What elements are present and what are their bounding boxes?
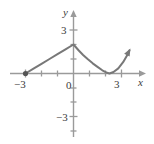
y-tick-label-pos3: 3: [61, 25, 67, 36]
x-axis-label: x: [138, 77, 143, 88]
axes-group: [10, 10, 146, 137]
graph-figure: −3 0 3 3 −3 x y: [0, 0, 154, 144]
y-axis-arrow-icon: [70, 10, 76, 17]
plot-canvas: [0, 0, 154, 144]
y-tick-label-neg3: −3: [56, 112, 68, 123]
function-curve: [26, 45, 130, 74]
y-axis-label: y: [63, 7, 68, 18]
x-tick-label-zero: 0: [66, 80, 72, 91]
curve-closed-endpoint-marker: [23, 71, 28, 76]
x-tick-label-neg3: −3: [14, 79, 26, 90]
function-curve-group: [23, 45, 131, 77]
x-tick-label-pos3: 3: [114, 79, 120, 90]
